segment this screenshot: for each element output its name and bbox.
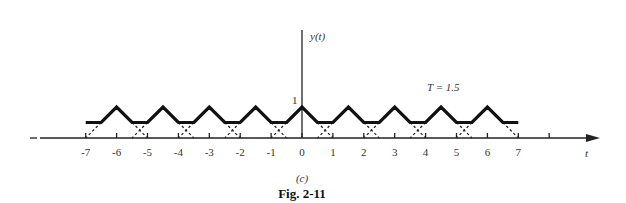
- x-tick-label: 6: [485, 146, 491, 158]
- x-tick-label: -6: [112, 146, 122, 158]
- x-tick-label: 2: [361, 146, 367, 158]
- x-tick-label: 3: [392, 146, 398, 158]
- figure-caption: Fig. 2-11: [278, 186, 326, 201]
- dashed-tail: [86, 123, 101, 139]
- y-axis-label: y(t): [309, 30, 326, 43]
- dashed-tail: [457, 123, 472, 139]
- x-tick-label: 4: [423, 146, 429, 158]
- x-axis-label: t: [585, 147, 589, 159]
- x-tick-labels: -7-6-5-4-3-2-101234567: [81, 146, 521, 158]
- dashed-tail: [410, 123, 425, 139]
- dashed-tail: [317, 123, 332, 139]
- x-axis-arrow-icon: [586, 134, 600, 142]
- dashed-tail: [271, 123, 286, 139]
- x-tick-label: 1: [330, 146, 336, 158]
- dashed-tail: [178, 123, 193, 139]
- x-tick-label: -3: [205, 146, 215, 158]
- dashed-tail: [132, 123, 147, 139]
- axes: [30, 30, 600, 142]
- x-tick-label: -4: [174, 146, 184, 158]
- dashed-tail: [364, 123, 379, 139]
- x-tick-label: -2: [236, 146, 245, 158]
- dashed-tail: [503, 123, 518, 139]
- x-tick-label: -1: [267, 146, 276, 158]
- signal-plot: -7-6-5-4-3-2-101234567 y(t) t 1 T = 1.5 …: [0, 0, 626, 203]
- subfigure-label: (c): [296, 172, 309, 185]
- x-tick-label: -5: [143, 146, 153, 158]
- dashed-tail: [225, 123, 240, 139]
- x-tick-label: 0: [299, 146, 305, 158]
- period-label: T = 1.5: [427, 81, 460, 93]
- x-tick-label: 5: [454, 146, 460, 158]
- x-tick-label: -7: [81, 146, 91, 158]
- x-tick-label: 7: [516, 146, 522, 158]
- peak-value-label: 1: [292, 94, 298, 106]
